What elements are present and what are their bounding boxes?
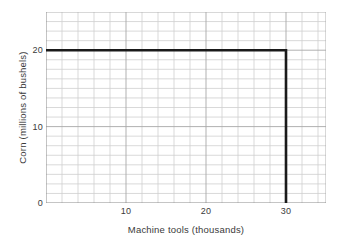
x-axis-tick-label-30: 30 — [281, 206, 291, 216]
x-axis-title: Machine tools (thousands) — [46, 224, 326, 235]
chart-figure: 10 20 30 0 10 20 Machine tools (thousand… — [0, 0, 343, 245]
y-axis-tick-label-0: 0 — [38, 198, 43, 208]
y-axis-title: Corn (millions of bushels) — [16, 12, 30, 203]
x-axis-tick-label-20: 20 — [201, 206, 211, 216]
y-axis-tick-label-20: 20 — [33, 45, 43, 55]
plot-area — [46, 12, 326, 203]
series-leontief-isoquant — [46, 50, 286, 203]
y-axis-tick-label-10: 10 — [33, 122, 43, 132]
isoquant-curve — [46, 12, 326, 203]
x-axis-tick-label-10: 10 — [121, 206, 131, 216]
